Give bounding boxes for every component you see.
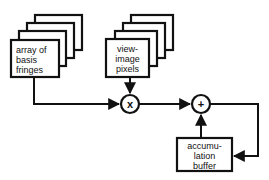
basis-fringes-label: array of basis fringes: [16, 45, 47, 75]
label-line: fringes: [16, 65, 47, 75]
edge-basis-to-multiply: [34, 77, 119, 104]
label-line: view-: [106, 44, 149, 54]
label-line: pixels: [106, 64, 149, 74]
accumulation-buffer-label: accumu- lation buffer: [177, 141, 232, 171]
label-line: buffer: [177, 161, 232, 171]
view-image-label: view- image pixels: [106, 44, 149, 74]
multiply-symbol: x: [122, 96, 138, 112]
label-line: lation: [177, 151, 232, 161]
label-line: image: [106, 54, 149, 64]
add-symbol: +: [193, 96, 209, 112]
label-line: basis: [16, 55, 47, 65]
label-line: array of: [16, 45, 47, 55]
label-line: accumu-: [177, 141, 232, 151]
